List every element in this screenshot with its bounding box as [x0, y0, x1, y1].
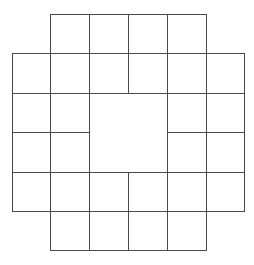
grid-cell — [50, 53, 90, 94]
grid-cell — [12, 93, 51, 133]
grid-cell — [167, 14, 207, 54]
grid-cell — [50, 14, 90, 54]
merged-center-cell — [89, 93, 168, 173]
grid-cell — [128, 172, 168, 212]
grid-diagram — [0, 0, 254, 265]
grid-cell — [50, 93, 90, 133]
grid-cell — [89, 14, 129, 54]
grid-cell — [50, 172, 90, 212]
grid-cell — [89, 53, 129, 94]
grid-cell — [167, 132, 207, 173]
grid-cell — [167, 93, 207, 133]
grid-cell — [12, 53, 51, 94]
grid-cell — [206, 53, 245, 94]
grid-cell — [12, 172, 51, 212]
grid-cell — [12, 132, 51, 173]
grid-cell — [167, 53, 207, 94]
grid-cell — [128, 53, 168, 94]
grid-cell — [50, 211, 90, 251]
grid-cell — [206, 132, 245, 173]
grid-cell — [206, 172, 245, 212]
grid-cell — [89, 172, 129, 212]
grid-cell — [167, 172, 207, 212]
grid-cell — [206, 93, 245, 133]
grid-cell — [128, 14, 168, 54]
grid-cell — [167, 211, 207, 251]
grid-cell — [128, 211, 168, 251]
grid-cell — [89, 211, 129, 251]
grid-cell — [50, 132, 90, 173]
